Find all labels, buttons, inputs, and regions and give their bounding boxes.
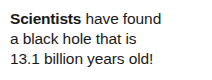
- headline-line-1: Scientists have found: [10, 9, 208, 29]
- headline-line-2: a black hole that is: [10, 29, 208, 49]
- headline-emphasis-word: Scientists: [10, 10, 81, 27]
- headline-text-block: Scientists have found a black hole that …: [0, 0, 212, 80]
- headline-line-1-rest: have found: [81, 10, 161, 27]
- headline-line-3: 13.1 billion years old!: [10, 49, 208, 69]
